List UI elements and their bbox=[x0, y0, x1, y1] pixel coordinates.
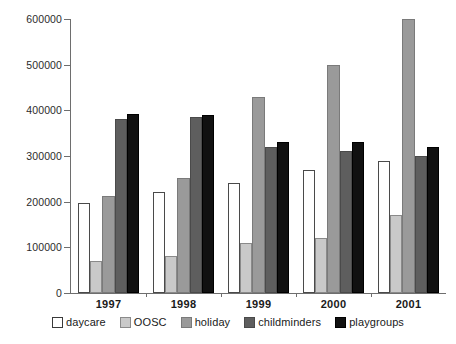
bar-holiday-1998 bbox=[177, 178, 189, 293]
bar-playgroups-2001 bbox=[427, 147, 439, 293]
bar-daycare-1997 bbox=[78, 203, 90, 293]
legend-swatch-icon bbox=[181, 317, 192, 328]
bar-oosc-2000 bbox=[315, 238, 327, 293]
y-axis-tick bbox=[64, 247, 71, 248]
x-axis-line bbox=[70, 293, 446, 294]
legend-swatch-icon bbox=[335, 317, 346, 328]
bar-oosc-1998 bbox=[165, 256, 177, 293]
y-axis-tick-label: 400000 bbox=[0, 105, 62, 115]
y-axis-tick bbox=[64, 293, 71, 294]
bar-daycare-2000 bbox=[303, 170, 315, 293]
legend-item-playgroups[interactable]: playgroups bbox=[335, 316, 404, 328]
bar-daycare-1998 bbox=[153, 192, 165, 293]
legend-label: childminders bbox=[258, 316, 321, 328]
y-axis-tick bbox=[64, 202, 71, 203]
bar-holiday-1999 bbox=[252, 97, 264, 293]
y-axis-tick-label: 0 bbox=[0, 288, 62, 298]
x-axis-label-2000: 2000 bbox=[296, 298, 371, 310]
bar-holiday-1997 bbox=[102, 196, 114, 293]
legend-label: OOSC bbox=[134, 316, 167, 328]
x-axis-label-1999: 1999 bbox=[221, 298, 296, 310]
bar-holiday-2001 bbox=[402, 19, 414, 293]
bar-chart: daycareOOSCholidaychildmindersplaygroups… bbox=[0, 0, 456, 344]
chart-title bbox=[0, 0, 456, 2]
bar-daycare-2001 bbox=[378, 161, 390, 293]
legend-label: daycare bbox=[66, 316, 106, 328]
legend-swatch-icon bbox=[52, 317, 63, 328]
y-axis-tick bbox=[64, 65, 71, 66]
y-axis-tick bbox=[64, 19, 71, 20]
legend-item-holiday[interactable]: holiday bbox=[181, 316, 231, 328]
bar-playgroups-1999 bbox=[277, 142, 289, 293]
x-axis-group-separator bbox=[371, 293, 372, 297]
x-axis-group-separator bbox=[221, 293, 222, 297]
bar-oosc-1997 bbox=[90, 261, 102, 293]
bar-playgroups-1998 bbox=[202, 115, 214, 293]
bar-holiday-2000 bbox=[327, 65, 339, 293]
bar-daycare-1999 bbox=[228, 183, 240, 293]
legend-item-oosc[interactable]: OOSC bbox=[120, 316, 167, 328]
legend-swatch-icon bbox=[244, 317, 255, 328]
bar-childminders-1999 bbox=[265, 147, 277, 293]
x-axis-label-1997: 1997 bbox=[71, 298, 146, 310]
bar-oosc-2001 bbox=[390, 215, 402, 293]
bar-playgroups-2000 bbox=[352, 142, 364, 293]
bar-childminders-2000 bbox=[340, 151, 352, 293]
y-axis-tick-label: 200000 bbox=[0, 197, 62, 207]
y-axis-tick-label: 600000 bbox=[0, 14, 62, 24]
bar-oosc-1999 bbox=[240, 243, 252, 293]
bar-childminders-1997 bbox=[115, 119, 127, 293]
legend-label: holiday bbox=[195, 316, 231, 328]
legend-swatch-icon bbox=[120, 317, 131, 328]
y-axis-tick-label: 500000 bbox=[0, 60, 62, 70]
x-axis-group-separator bbox=[146, 293, 147, 297]
chart-legend: daycareOOSCholidaychildmindersplaygroups bbox=[0, 316, 456, 328]
y-axis-tick-label: 100000 bbox=[0, 242, 62, 252]
legend-label: playgroups bbox=[349, 316, 404, 328]
y-axis-tick bbox=[64, 110, 71, 111]
legend-item-daycare[interactable]: daycare bbox=[52, 316, 106, 328]
y-axis-tick-label: 300000 bbox=[0, 151, 62, 161]
plot-area bbox=[71, 19, 446, 293]
y-axis-tick bbox=[64, 156, 71, 157]
x-axis-group-separator bbox=[296, 293, 297, 297]
bar-childminders-1998 bbox=[190, 117, 202, 293]
x-axis-label-2001: 2001 bbox=[371, 298, 446, 310]
bar-playgroups-1997 bbox=[127, 114, 139, 293]
legend-item-childminders[interactable]: childminders bbox=[244, 316, 321, 328]
x-axis-label-1998: 1998 bbox=[146, 298, 221, 310]
bar-childminders-2001 bbox=[415, 156, 427, 293]
